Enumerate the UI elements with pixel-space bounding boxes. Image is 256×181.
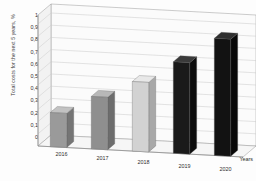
bar[interactable]	[91, 90, 114, 149]
x-axis-category-label: 2017	[88, 155, 118, 161]
bar-side-face	[190, 57, 197, 155]
bar[interactable]	[132, 76, 155, 152]
bar-front-face	[50, 113, 66, 148]
bar-front-face	[91, 96, 107, 149]
bar[interactable]	[173, 56, 196, 154]
bar-side-face	[149, 76, 156, 152]
bar-side-face	[67, 107, 74, 147]
bar[interactable]	[214, 32, 237, 156]
chart-figure: Total costs for the next 5 years, % 10,9…	[0, 0, 256, 181]
x-axis-category-label: 2020	[211, 166, 241, 172]
bar-side-face	[108, 91, 115, 149]
bar-front-face	[173, 62, 189, 154]
bar[interactable]	[50, 107, 73, 148]
x-axis-title: Years	[239, 156, 253, 162]
x-axis-category-label: 2016	[47, 151, 77, 157]
plot-area	[0, 0, 256, 181]
bar-front-face	[214, 38, 230, 156]
bar-front-face	[132, 82, 148, 152]
x-axis-category-label: 2019	[170, 163, 200, 169]
bar-side-face	[231, 33, 238, 156]
x-axis-category-label: 2018	[129, 159, 159, 165]
